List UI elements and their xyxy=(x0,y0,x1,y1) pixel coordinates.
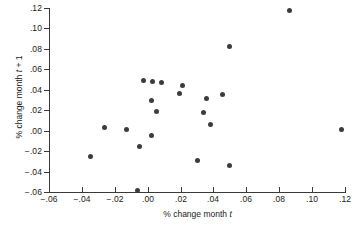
data-point xyxy=(208,122,213,127)
y-tick-mark xyxy=(44,28,49,29)
x-tick-label: .02 xyxy=(164,195,198,204)
data-point xyxy=(287,8,292,13)
x-axis-line xyxy=(49,192,346,193)
data-point xyxy=(102,125,107,130)
data-point xyxy=(201,110,206,115)
x-tick-label: .00 xyxy=(131,195,165,204)
x-tick-mark xyxy=(148,187,149,192)
scatter-plot-figure: −.06−.04−.02.00.02.04.06.08.10.12 −.06−.… xyxy=(0,0,354,228)
x-tick-mark xyxy=(82,187,83,192)
x-tick-label: −.04 xyxy=(65,195,99,204)
y-tick-mark xyxy=(44,69,49,70)
y-tick-mark xyxy=(44,49,49,50)
data-point xyxy=(220,92,225,97)
x-tick-label: −.06 xyxy=(32,195,66,204)
x-tick-mark xyxy=(49,187,50,192)
data-point xyxy=(149,98,154,103)
data-point xyxy=(195,158,200,163)
data-point xyxy=(135,188,140,193)
y-tick-mark xyxy=(44,131,49,132)
x-tick-label: .06 xyxy=(229,195,263,204)
x-tick-mark xyxy=(181,187,182,192)
y-tick-mark xyxy=(44,192,49,193)
x-tick-label: .08 xyxy=(262,195,296,204)
data-point xyxy=(149,133,154,138)
y-tick-mark xyxy=(44,8,49,9)
x-tick-mark xyxy=(279,187,280,192)
data-point xyxy=(88,154,93,159)
x-tick-mark xyxy=(115,187,116,192)
y-axis-title: % change month t + 1 xyxy=(14,12,24,182)
axis-title-variable: t xyxy=(14,70,24,72)
x-tick-label: .10 xyxy=(295,195,329,204)
data-point xyxy=(141,78,146,83)
x-tick-mark xyxy=(312,187,313,192)
data-point xyxy=(154,109,159,114)
x-tick-mark xyxy=(246,187,247,192)
y-axis-line xyxy=(49,8,50,193)
y-tick-mark xyxy=(44,172,49,173)
x-tick-mark xyxy=(213,187,214,192)
data-point xyxy=(227,163,232,168)
y-tick-mark xyxy=(44,90,49,91)
y-tick-mark xyxy=(44,110,49,111)
data-point xyxy=(204,96,209,101)
data-point xyxy=(137,144,142,149)
y-tick-mark xyxy=(44,151,49,152)
data-point xyxy=(177,91,182,96)
data-point xyxy=(180,83,185,88)
x-tick-label: .04 xyxy=(196,195,230,204)
x-axis-title: % change month t xyxy=(49,209,346,219)
axis-title-variable: t xyxy=(229,209,231,219)
data-point xyxy=(150,79,155,84)
data-point xyxy=(159,80,164,85)
data-point xyxy=(227,44,232,49)
x-tick-label: .12 xyxy=(328,195,354,204)
data-point xyxy=(339,127,344,132)
data-point xyxy=(124,127,129,132)
x-tick-label: −.02 xyxy=(98,195,132,204)
x-tick-mark xyxy=(345,187,346,192)
